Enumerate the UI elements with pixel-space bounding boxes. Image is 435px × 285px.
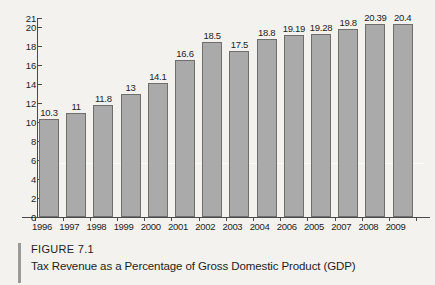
- bar: [121, 94, 141, 217]
- bar-item: 11: [66, 18, 86, 217]
- bar-item: 17.5: [229, 18, 249, 217]
- bar-value-label: 11.8: [84, 93, 122, 104]
- bar-item: 19.8: [338, 18, 358, 217]
- y-tick-label: 16: [0, 60, 36, 71]
- bar-item: 18.8: [257, 18, 277, 217]
- bar: [393, 24, 413, 217]
- y-tick-label: 21: [0, 13, 36, 24]
- bar-item: 10.3: [39, 18, 59, 217]
- bar-item: 19.19: [284, 18, 304, 217]
- bar: [39, 119, 59, 217]
- y-tick-label: 6: [0, 155, 36, 166]
- bar-chart: 0246810121416182021 10.31111.81314.116.6…: [0, 0, 435, 236]
- bar: [229, 51, 249, 217]
- bar: [284, 35, 304, 217]
- bar-value-label: 16.6: [166, 48, 204, 59]
- bar-series: 10.31111.81314.116.618.517.518.819.1919.…: [38, 18, 430, 217]
- bar: [175, 60, 195, 217]
- bar-item: 19.28: [311, 18, 331, 217]
- figure-container: 0246810121416182021 10.31111.81314.116.6…: [0, 0, 435, 285]
- bar: [365, 24, 385, 217]
- bar-item: 14.1: [148, 18, 168, 217]
- y-tick-label: 8: [0, 136, 36, 147]
- y-tick-label: 14: [0, 79, 36, 90]
- figure-number: FIGURE 7.1: [31, 243, 94, 255]
- bar-item: 13: [121, 18, 141, 217]
- bar-item: 16.6: [175, 18, 195, 217]
- x-tick-mark: [416, 217, 417, 221]
- x-tick-label: 2009: [379, 221, 413, 232]
- bar-value-label: 20.4: [384, 12, 422, 23]
- bar: [148, 83, 168, 217]
- bar-item: 18.5: [202, 18, 222, 217]
- bar-value-label: 17.5: [220, 39, 258, 50]
- y-tick-label: 20: [0, 22, 36, 33]
- bar-item: 20.4: [393, 18, 413, 217]
- bar: [93, 105, 113, 217]
- y-tick-label: 2: [0, 193, 36, 204]
- y-tick-label: 10: [0, 117, 36, 128]
- bar: [66, 113, 86, 217]
- bar: [202, 42, 222, 217]
- bar-item: 11.8: [93, 18, 113, 217]
- bar: [257, 39, 277, 217]
- bar: [311, 34, 331, 217]
- bar-value-label: 13: [112, 82, 150, 93]
- bar-value-label: 14.1: [139, 71, 177, 82]
- figure-caption: FIGURE 7.1 Tax Revenue as a Percentage o…: [0, 240, 435, 285]
- bar: [338, 29, 358, 217]
- y-tick-label: 18: [0, 41, 36, 52]
- y-tick-label: 4: [0, 174, 36, 185]
- figure-title: Tax Revenue as a Percentage of Gross Dom…: [31, 260, 356, 272]
- caption-rule: [18, 243, 21, 283]
- y-tick-mark: [38, 217, 42, 218]
- bar-item: 20.39: [365, 18, 385, 217]
